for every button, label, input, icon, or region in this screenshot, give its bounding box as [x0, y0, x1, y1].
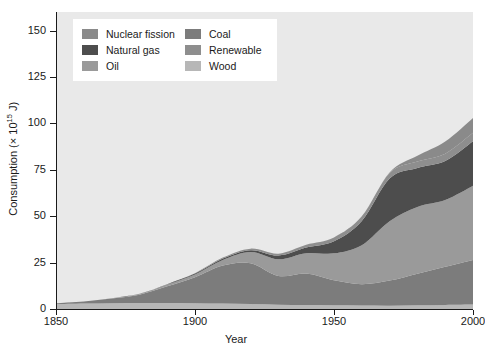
x-tick-label-1850: 1850 [44, 316, 68, 327]
legend-item-oil[interactable]: Oil [82, 58, 175, 74]
legend-label: Oil [106, 61, 119, 72]
legend-item-renewable[interactable]: Renewable [185, 42, 262, 58]
legend-swatch-icon-nuclear-fission [82, 29, 98, 39]
y-axis-title-tail: J) [7, 102, 19, 114]
x-tick-label-2000: 2000 [461, 316, 485, 327]
y-tick-125 [50, 77, 56, 78]
legend-swatch-icon-coal [185, 29, 201, 39]
legend-item-coal[interactable]: Coal [185, 26, 262, 42]
y-tick-100 [50, 123, 56, 124]
y-axis-line [56, 12, 57, 310]
y-tick-25 [50, 263, 56, 264]
y-axis-title: Consumption (× 1015 J) [5, 9, 19, 309]
y-axis-title-exponent: 15 [5, 114, 14, 122]
x-tick-label-1900: 1900 [183, 316, 207, 327]
legend-item-natural-gas[interactable]: Natural gas [82, 42, 175, 58]
legend-item-wood[interactable]: Wood [185, 58, 262, 74]
legend-swatch-icon-wood [185, 61, 201, 71]
legend-swatch-icon-renewable [185, 45, 201, 55]
legend-swatch-icon-natural-gas [82, 45, 98, 55]
legend-label: Nuclear fission [106, 29, 175, 40]
x-axis-line [56, 309, 473, 310]
legend-column-left: Nuclear fissionNatural gasOil [82, 26, 175, 74]
legend-label: Natural gas [106, 45, 160, 56]
y-tick-50 [50, 216, 56, 217]
legend-label: Wood [209, 61, 236, 72]
x-axis-title: Year [0, 333, 472, 345]
legend: Nuclear fissionNatural gasOil CoalRenewa… [73, 19, 277, 81]
y-tick-75 [50, 170, 56, 171]
legend-label: Coal [209, 29, 231, 40]
y-axis-title-text: Consumption (× 10 [7, 123, 19, 216]
legend-column-right: CoalRenewableWood [185, 26, 262, 74]
y-tick-150 [50, 31, 56, 32]
legend-label: Renewable [209, 45, 262, 56]
legend-item-nuclear-fission[interactable]: Nuclear fission [82, 26, 175, 42]
x-tick-label-1950: 1950 [322, 316, 346, 327]
legend-swatch-icon-oil [82, 61, 98, 71]
